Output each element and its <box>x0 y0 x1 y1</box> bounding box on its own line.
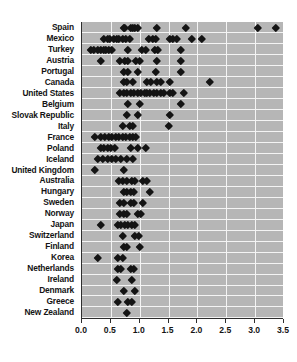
vertical-gridline <box>140 22 141 318</box>
y-axis-label: Austria <box>46 55 74 66</box>
x-axis-tick-label: 2.5 <box>219 325 231 335</box>
x-axis-tick <box>196 319 197 323</box>
x-axis-tick-label: 3.0 <box>248 325 260 335</box>
x-axis-tick-label: 0.5 <box>104 325 116 335</box>
y-axis-label: Canada <box>45 77 74 88</box>
x-axis-tick-label: 2.0 <box>190 325 202 335</box>
vertical-gridline <box>197 22 198 318</box>
plot-row-band <box>82 175 283 186</box>
x-axis-tick <box>81 319 82 323</box>
y-axis-label: Japan <box>51 219 74 230</box>
plot-row-band <box>82 219 283 230</box>
x-axis-tick <box>254 319 255 323</box>
y-axis-label: Switzerland <box>29 230 74 241</box>
y-axis-line <box>81 22 82 319</box>
y-axis-label: New Zealand <box>24 307 74 318</box>
vertical-gridline <box>111 22 112 318</box>
plot-row-band <box>82 241 283 252</box>
plot-row-band <box>82 296 283 307</box>
y-axis-label: Norway <box>45 208 74 219</box>
y-axis-label: Belgium <box>42 99 74 110</box>
x-axis-tick <box>168 319 169 323</box>
plot-row-band <box>82 208 283 219</box>
y-axis-category-labels: SpainMexicoTurkeyAustriaPortugalCanadaUn… <box>0 22 78 318</box>
y-axis-label: Ireland <box>48 274 74 285</box>
plot-area <box>81 22 283 318</box>
y-axis-label: United Kingdom <box>11 165 74 176</box>
x-axis-line <box>81 318 283 319</box>
y-axis-label: United States <box>22 88 74 99</box>
y-axis-label: Portugal <box>41 66 74 77</box>
plot-row-band <box>82 263 283 274</box>
y-axis-label: Italy <box>58 121 74 132</box>
y-axis-label: Finland <box>45 241 74 252</box>
vertical-gridline <box>255 22 256 318</box>
plot-row-band <box>82 110 283 121</box>
x-axis-tick-label: 1.0 <box>133 325 145 335</box>
plot-row-band <box>82 77 283 88</box>
x-axis-tick <box>283 319 284 323</box>
y-axis-label: Korea <box>51 252 74 263</box>
y-axis-label: Turkey <box>48 44 74 55</box>
y-axis-label: Hungary <box>41 186 74 197</box>
y-axis-label: Netherlands <box>27 263 74 274</box>
x-axis-tick-label: 1.5 <box>162 325 174 335</box>
plot-row-band <box>82 186 283 197</box>
y-axis-label: Spain <box>52 22 74 33</box>
x-axis-tick <box>139 319 140 323</box>
y-axis-label: Greece <box>46 296 74 307</box>
y-axis-label: Iceland <box>46 154 74 165</box>
scatter-chart: SpainMexicoTurkeyAustriaPortugalCanadaUn… <box>0 0 297 362</box>
vertical-gridline <box>226 22 227 318</box>
y-axis-label: Denmark <box>39 285 74 296</box>
y-axis-label: Australia <box>40 175 75 186</box>
plot-row-band <box>82 285 283 296</box>
y-axis-label: Slovak Republic <box>12 110 74 121</box>
plot-row-band <box>82 252 283 263</box>
x-axis-tick-label: 0.0 <box>75 325 87 335</box>
plot-row-band <box>82 121 283 132</box>
plot-row-band <box>82 197 283 208</box>
x-axis-tick <box>225 319 226 323</box>
plot-row-band <box>82 230 283 241</box>
y-axis-label: Sweden <box>43 197 74 208</box>
y-axis-label: France <box>47 132 74 143</box>
plot-row-band <box>82 165 283 176</box>
y-axis-label: Poland <box>47 143 74 154</box>
plot-row-band <box>82 307 283 318</box>
y-axis-label: Mexico <box>47 33 75 44</box>
x-axis-tick-label: 3.5 <box>277 325 289 335</box>
vertical-gridline <box>169 22 170 318</box>
x-axis-tick <box>110 319 111 323</box>
